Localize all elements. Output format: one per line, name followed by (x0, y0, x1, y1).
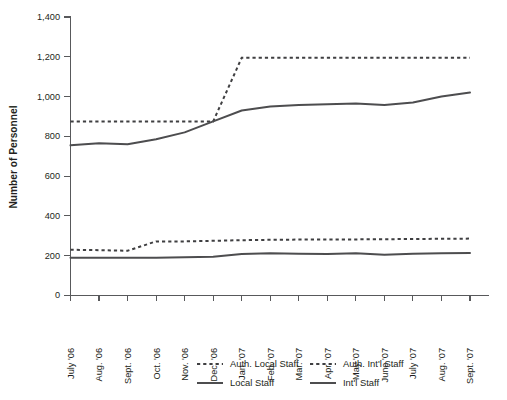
y-axis-ticks: 02004006008001,0001,2001,400 (37, 12, 71, 301)
series-line-auth-int-l-staff (71, 239, 471, 251)
series-line-local-staff (71, 93, 471, 146)
y-axis-title-label: Number of Personnel (8, 105, 19, 208)
x-tick-label: Aug. '07 (437, 348, 447, 381)
y-tick-label: 1,200 (37, 52, 60, 62)
x-axis-ticks: July '06Aug. '06Sept. '06Oct. '06Nov. '0… (66, 296, 476, 384)
x-tick-label: Aug. '06 (94, 348, 104, 381)
y-tick-label: 600 (45, 171, 60, 181)
legend-label: Auth. Local Staff (230, 358, 299, 369)
personnel-line-chart: Number of Personnel 02004006008001,0001,… (0, 0, 507, 400)
x-tick-label: Oct. '06 (152, 348, 162, 379)
y-tick-label: 1,400 (37, 12, 60, 22)
legend-label: Auth. Int'l Staff (343, 358, 404, 369)
x-tick-label: Sept. '07 (465, 348, 475, 384)
legend-label: Local Staff (230, 377, 275, 388)
y-axis-title: Number of Personnel (8, 105, 19, 208)
series-layer (71, 58, 471, 258)
x-tick-label: July '07 (408, 348, 418, 379)
x-tick-label: Nov. '06 (180, 348, 190, 381)
x-tick-label: July '06 (66, 348, 76, 379)
y-tick-label: 400 (45, 211, 60, 221)
y-tick-label: 800 (45, 131, 60, 141)
y-tick-label: 1,000 (37, 92, 60, 102)
series-line-int-l-staff (71, 253, 471, 258)
y-tick-label: 0 (55, 290, 60, 300)
x-tick-label: Sept. '06 (123, 348, 133, 384)
chart-container: Number of Personnel 02004006008001,0001,… (0, 0, 507, 400)
legend-label: Int'l Staff (343, 377, 379, 388)
series-line-auth-local-staff (71, 58, 471, 122)
y-tick-label: 200 (45, 251, 60, 261)
